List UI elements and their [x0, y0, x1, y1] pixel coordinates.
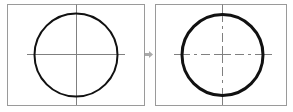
- arrow-right-icon: [145, 51, 153, 58]
- panel-after: [156, 5, 287, 106]
- diagram-svg: [0, 0, 293, 112]
- panel-before: [8, 5, 145, 106]
- diagram-canvas: [0, 0, 293, 112]
